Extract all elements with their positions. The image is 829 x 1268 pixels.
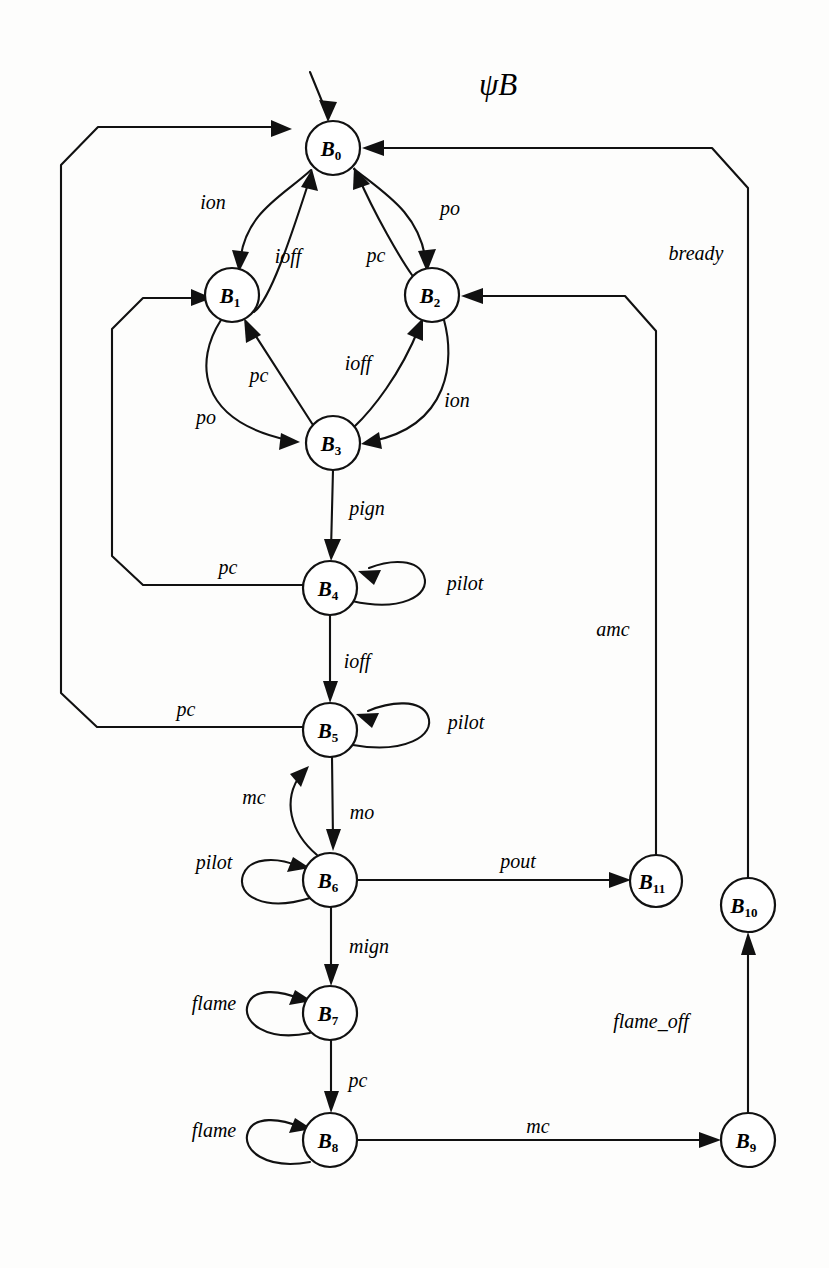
edge-b4-self	[352, 562, 425, 605]
node-B2[interactable]: B2	[405, 268, 459, 322]
edge-b9-b10	[741, 932, 756, 1113]
diagram-page: B0 B1 B2 B3 B4 B5	[0, 0, 829, 1268]
edge-b6-self	[242, 857, 310, 903]
edge-b5-b6	[326, 757, 341, 851]
edge-label-pc-b7-b8: pc	[347, 1069, 368, 1092]
initial-state-arrow	[310, 72, 337, 122]
edge-label-ioff-b4-b5: ioff	[344, 650, 373, 673]
node-B6[interactable]: B6	[303, 853, 357, 907]
nodes-layer: B0 B1 B2 B3 B4 B5	[205, 121, 775, 1167]
edge-label-pc-b3-b1: pc	[248, 364, 269, 387]
edges-layer	[61, 72, 756, 1164]
edge-label-pc-b5-b0: pc	[175, 698, 196, 721]
edge-label-ion-b0-b1: ion	[200, 191, 226, 213]
edge-b5-self	[353, 703, 429, 747]
edge-label-pc-b4-b1: pc	[217, 556, 238, 579]
edge-b5-b0	[61, 120, 303, 727]
node-B10[interactable]: B10	[721, 878, 775, 932]
node-B5[interactable]: B5	[303, 703, 357, 757]
edge-label-po-b1-b3: po	[194, 406, 216, 429]
node-B3[interactable]: B3	[306, 416, 360, 470]
edge-label-mc-b6-b5: mc	[242, 786, 265, 808]
node-B7[interactable]: B7	[303, 986, 357, 1040]
edge-label-ion-b2-b3: ion	[444, 389, 470, 411]
node-B0[interactable]: B0	[306, 121, 360, 175]
edge-label-ioff-b3-b2: ioff	[345, 352, 374, 375]
node-B11[interactable]: B11	[630, 855, 682, 907]
node-B9[interactable]: B9	[721, 1113, 775, 1167]
edge-b7-b8	[324, 1040, 339, 1113]
edge-label-pilot-b6-self: pilot	[194, 851, 233, 874]
node-B8[interactable]: B8	[303, 1113, 357, 1167]
edge-b11-b2	[461, 288, 656, 855]
edge-b4-b5	[323, 615, 338, 703]
state-diagram-canvas: B0 B1 B2 B3 B4 B5	[0, 0, 829, 1268]
edge-b6-b5	[290, 766, 317, 855]
diagram-title: ψB	[479, 67, 517, 102]
edge-label-pilot-b5-self: pilot	[446, 711, 485, 734]
edge-label-mign-b6-b7: mign	[349, 935, 389, 958]
edge-label-ioff-b1-b0: ioff	[275, 245, 304, 268]
edge-b3-b4	[324, 470, 341, 561]
edge-label-pout-b6-b11: pout	[498, 850, 536, 873]
edge-label-pign-b3-b4: pign	[347, 497, 385, 520]
edge-label-flame-b7-self: flame	[192, 992, 237, 1015]
edge-label-po-b0-b2: po	[438, 197, 460, 220]
edge-label-pc-b2-b0: pc	[365, 244, 386, 267]
edge-label-mo-b5-b6: mo	[350, 801, 374, 823]
node-B1[interactable]: B1	[205, 268, 259, 322]
edge-label-mc-b8-b9: mc	[526, 1115, 549, 1137]
edge-b6-b7	[324, 907, 339, 986]
edge-label-flameoff-b9-b10: flame_off	[613, 1010, 691, 1033]
edge-b2-b3	[361, 320, 448, 449]
edge-label-pilot-b4-self: pilot	[445, 572, 484, 595]
edge-b6-b11	[357, 872, 631, 888]
edge-label-flame-b8-self: flame	[192, 1119, 237, 1142]
node-B4[interactable]: B4	[303, 561, 357, 615]
edge-label-amc-b11-b2: amc	[596, 618, 629, 640]
edge-label-bready-b10-b0: bready	[669, 242, 724, 265]
